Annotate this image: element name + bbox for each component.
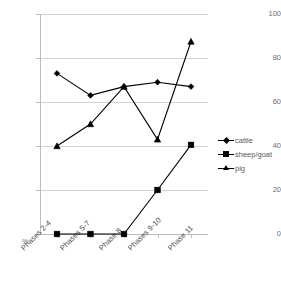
data-point-pig-4 (188, 38, 194, 44)
legend-label-sheep-goat: sheep/goat (235, 150, 272, 159)
series-pig (54, 38, 194, 148)
legend: cattle sheep/goat pig (218, 134, 272, 176)
data-point-cattle-4 (188, 84, 194, 90)
legend-marker-square-icon (218, 149, 234, 159)
data-point-sheep-goat-1 (88, 231, 94, 237)
series-sheep-goat (54, 142, 194, 237)
data-point-sheep-goat-4 (188, 142, 194, 148)
legend-label-pig: pig (235, 164, 245, 173)
data-point-sheep-goat-0 (54, 231, 60, 237)
series-line-pig (57, 42, 191, 147)
data-point-cattle-3 (155, 79, 161, 85)
series-line-sheep-goat (57, 145, 191, 234)
data-point-cattle-1 (88, 93, 94, 99)
data-point-sheep-goat-2 (121, 231, 127, 237)
legend-marker-triangle-icon (218, 163, 234, 173)
data-point-cattle-0 (54, 71, 60, 77)
data-point-pig-0 (54, 143, 60, 149)
data-point-pig-3 (154, 136, 160, 142)
legend-label-cattle: cattle (235, 136, 253, 145)
legend-marker-diamond-icon (218, 135, 234, 145)
legend-item-pig[interactable]: pig (218, 162, 272, 174)
legend-item-sheep-goat[interactable]: sheep/goat (218, 148, 272, 160)
legend-item-cattle[interactable]: cattle (218, 134, 272, 146)
line-chart: 100 80 60 40 20 0 % Phases 2-4 Phases 5-… (0, 0, 281, 300)
data-point-sheep-goat-3 (155, 187, 161, 193)
